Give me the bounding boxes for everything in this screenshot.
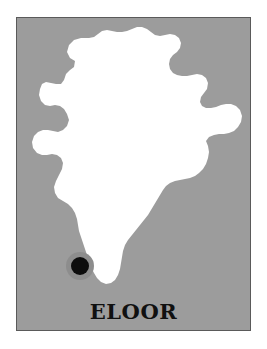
- map-plate: ELOOR: [16, 17, 251, 331]
- india-final-group: [17, 18, 250, 330]
- india-country-map: [17, 18, 250, 330]
- eloor-marker-dot[interactable]: [71, 257, 89, 275]
- location-map-figure: ELOOR: [0, 0, 267, 349]
- place-label: ELOOR: [17, 301, 250, 322]
